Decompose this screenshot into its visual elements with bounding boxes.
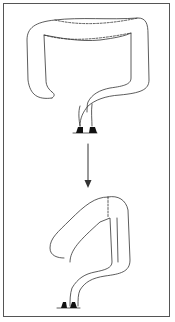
anchor-blobs	[61, 127, 97, 308]
arrow-head	[85, 180, 92, 188]
diagram-canvas	[0, 0, 175, 322]
bottom-tube	[50, 197, 130, 306]
top-tube	[27, 18, 149, 126]
